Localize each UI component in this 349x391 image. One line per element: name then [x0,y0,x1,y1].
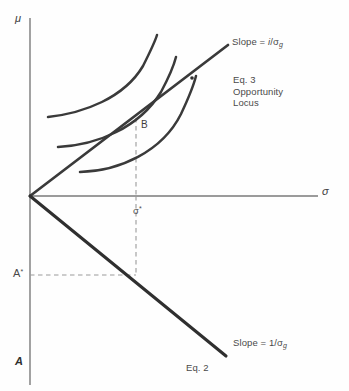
indifference-curve-3 [80,76,196,172]
eq3-annotation-block: Eq. 3 Opportunity Locus [233,74,283,109]
opportunity-locus-line [30,45,228,196]
eq2-label: Eq. 2 [186,362,209,374]
a-star-sup: * [20,268,23,275]
eq2-line [30,196,226,356]
sigma-star-label: σ* [133,203,142,217]
indifference-curve-2 [58,57,176,147]
diagram-canvas [0,0,349,391]
indifference-curve-1 [48,35,157,117]
slope-upper-subscript: g [279,41,283,48]
y-axis-label: μ [15,12,21,24]
eq3-line1: Eq. 3 [233,74,283,86]
slope-lower-prefix: Slope = [233,337,269,348]
origin-corner-label: A [15,355,23,367]
tangency-point-marker [190,76,194,80]
sigma-star-sup: * [139,205,142,212]
x-axis-label: σ [322,185,329,197]
eq3-line2: Opportunity [233,86,283,98]
slope-upper-prefix: Slope = [232,36,268,47]
slope-upper-label: Slope = i/σg [232,36,283,51]
point-b-label: B [141,119,148,131]
opportunity-locus-diagram: μ σ A B σ* A* Slope = i/σg Eq. 3 Opportu… [0,0,349,391]
a-star-label: A* [13,266,23,280]
slope-lower-label: Slope = 1/σg [233,337,287,352]
slope-lower-subscript: g [283,342,287,349]
eq3-line3: Locus [233,97,283,109]
